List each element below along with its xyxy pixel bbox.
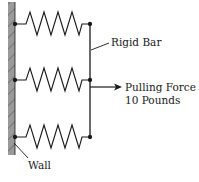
force-label-line2: 10 Pounds: [125, 94, 180, 106]
force-arrow-icon: [90, 84, 122, 91]
rigid-bar-label: Rigid Bar: [111, 36, 161, 48]
bottom-spring: [13, 125, 91, 148]
middle-spring: [13, 68, 91, 91]
wall-leader: [14, 143, 28, 158]
top-spring: [13, 12, 91, 35]
force-label-line1: Pulling Force =: [125, 81, 199, 93]
wall-label: Wall: [28, 159, 51, 171]
rigid-bar-leader: [91, 43, 109, 50]
